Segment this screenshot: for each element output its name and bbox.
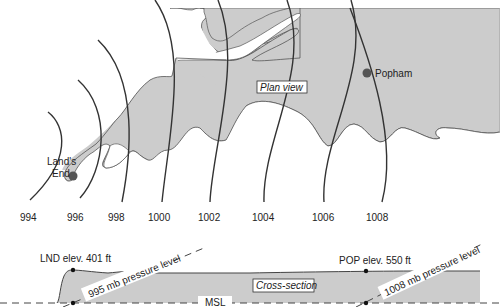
isobar-label-996: 996 [67, 212, 84, 223]
popham-marker [363, 69, 372, 78]
lnd-msl-marker [71, 301, 75, 305]
isobar-label-1004: 1004 [252, 212, 275, 223]
pop-elevation-label: POP elev. 550 ft [339, 255, 411, 266]
plan-view: 994 996 998 1000 1002 1004 1006 1008 Lan… [0, 0, 500, 223]
lands-end-label-line1: Land's [47, 156, 76, 167]
isobar-label-1002: 1002 [198, 212, 221, 223]
msl-label: MSL [205, 297, 226, 307]
diagram-canvas: 994 996 998 1000 1002 1004 1006 1008 Lan… [0, 0, 500, 307]
isobar-label-998: 998 [108, 212, 125, 223]
isobar-label-994: 994 [20, 212, 37, 223]
lnd-surface-marker [71, 268, 75, 272]
isobar-label-1006: 1006 [312, 212, 335, 223]
popham-label: Popham [375, 68, 412, 79]
isobar-label-1008: 1008 [366, 212, 389, 223]
pressure-diagram: 994 996 998 1000 1002 1004 1006 1008 Lan… [0, 0, 500, 307]
lands-end-label-line2: End [52, 168, 70, 179]
lnd-elevation-label: LND elev. 401 ft [40, 253, 111, 264]
cross-section: MSL 995 mb pressure level 1008 mb pressu… [0, 244, 500, 307]
isobar-label-1000: 1000 [148, 212, 171, 223]
pop-surface-marker [364, 269, 368, 273]
plan-view-label: Plan view [260, 82, 304, 93]
lands-end-marker [69, 172, 78, 181]
pop-msl-marker [364, 301, 368, 305]
sea-top [0, 0, 500, 8]
cross-section-label: Cross-section [256, 280, 318, 291]
isobar-labels: 994 996 998 1000 1002 1004 1006 1008 [20, 212, 389, 223]
